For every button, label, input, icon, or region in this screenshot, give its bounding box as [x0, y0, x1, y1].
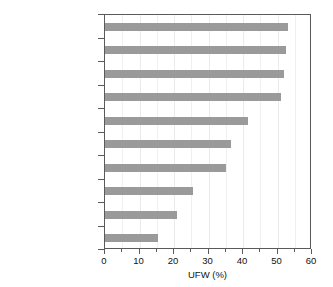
x-axis-minor-tick [121, 249, 122, 252]
bar [105, 211, 177, 219]
bar [105, 117, 248, 125]
x-axis-label: 30 [193, 255, 223, 266]
x-axis-tick [311, 249, 312, 254]
y-axis-tick [98, 179, 104, 180]
plot-area [104, 14, 311, 249]
x-axis-tick [208, 249, 209, 254]
bar [105, 46, 286, 54]
bar-chart-figure: AmmanAlgiersSana'aHebronLebanon (average… [0, 0, 333, 287]
x-axis-tick [104, 249, 105, 254]
x-axis-minor-tick [225, 249, 226, 252]
bar [105, 93, 281, 101]
bar-row [105, 86, 310, 110]
bar-row [105, 15, 310, 39]
bar-row [105, 39, 310, 63]
x-axis-label: 20 [158, 255, 188, 266]
bar [105, 234, 158, 242]
bar-row [105, 133, 310, 157]
x-axis-minor-tick [190, 249, 191, 252]
x-axis-label: 40 [227, 255, 257, 266]
y-axis-tick [98, 202, 104, 203]
bar [105, 187, 193, 195]
x-axis-minor-tick [156, 249, 157, 252]
bar [105, 164, 226, 172]
x-axis-minor-tick [294, 249, 295, 252]
y-axis-tick [98, 14, 104, 15]
bar-row [105, 180, 310, 204]
bar-row [105, 109, 310, 133]
y-axis-tick [98, 226, 104, 227]
x-axis-tick [277, 249, 278, 254]
x-axis-label: 0 [89, 255, 119, 266]
bar [105, 23, 288, 31]
y-axis-tick [98, 38, 104, 39]
bar-row [105, 203, 310, 227]
bar-row [105, 156, 310, 180]
y-axis-tick [98, 108, 104, 109]
y-axis-tick [98, 85, 104, 86]
y-axis-tick [98, 155, 104, 156]
x-axis-label: 10 [124, 255, 154, 266]
bar-row [105, 227, 310, 251]
x-axis-label: 60 [296, 255, 326, 266]
bar [105, 70, 284, 78]
x-axis-tick [139, 249, 140, 254]
bar [105, 140, 231, 148]
y-axis-tick [98, 132, 104, 133]
x-axis-tick [173, 249, 174, 254]
x-axis-minor-tick [259, 249, 260, 252]
x-axis-tick [242, 249, 243, 254]
y-axis-tick [98, 61, 104, 62]
x-axis-label: 50 [262, 255, 292, 266]
x-axis-title: UFW (%) [104, 269, 311, 280]
bar-row [105, 62, 310, 86]
